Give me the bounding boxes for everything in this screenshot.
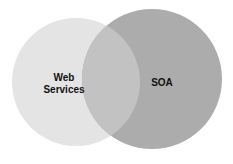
soa-label: SOA xyxy=(151,77,173,88)
venn-diagram: Web Services SOA xyxy=(0,0,233,164)
web-services-label-line1: Web xyxy=(54,72,75,83)
venn-svg: Web Services SOA xyxy=(0,0,233,164)
web-services-label-line2: Services xyxy=(43,84,85,95)
